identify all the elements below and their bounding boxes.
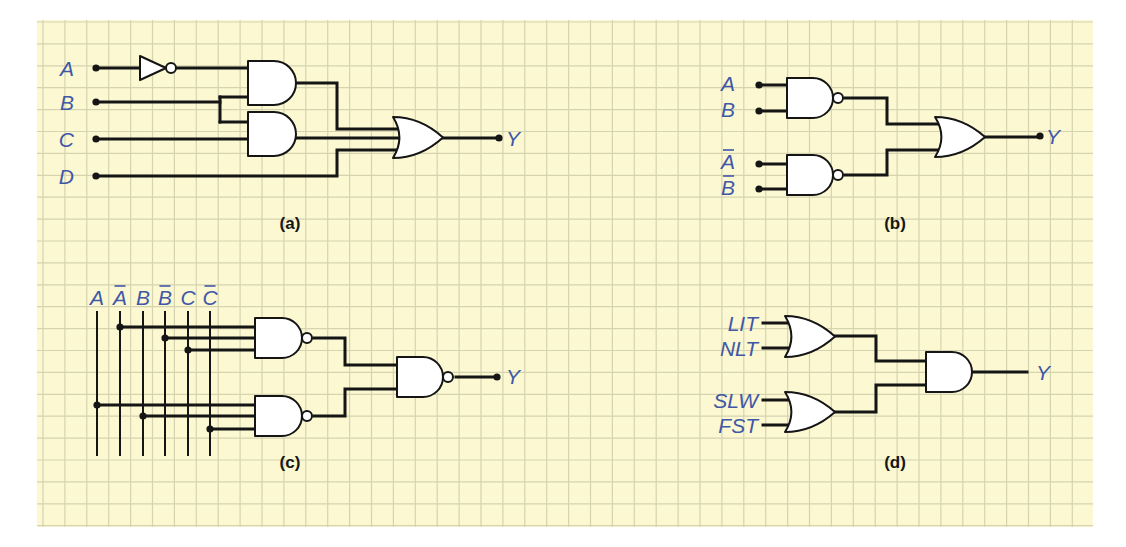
input-terminal-dot [92,98,99,105]
input-terminal-dot [755,160,762,167]
nand-gate-icon [787,78,833,118]
logic-circuits-figure: ABCDY(a) ABABY(b) AABBCCY(c) LITNLTSLWFS… [0,0,1126,547]
signal-label: SLW [713,389,760,412]
and-gate-icon [248,61,296,105]
inversion-bubble [302,333,312,343]
inversion-bubble [443,372,453,382]
junction-dot [206,425,213,432]
signal-label: B [60,91,74,114]
signal-label: Y [1036,361,1052,384]
input-terminal-dot [755,185,762,192]
signal-label: A [719,150,735,173]
and-gate-icon [926,352,972,392]
and-gate-3 [248,112,296,156]
inversion-bubble [833,93,843,103]
signal-label: A [719,72,735,95]
signal-label: C [180,286,196,309]
nand-gate-icon [787,155,833,195]
signal-label: A [58,57,74,80]
output: Y [1036,361,1052,384]
input-terminal-dot [755,81,762,88]
panel-caption: (c) [280,453,301,472]
inversion-bubble [302,411,312,421]
signal-label: Y [1046,125,1062,148]
panel-caption: (a) [280,214,301,233]
and-gate-icon [248,112,296,156]
input-terminal-dot [92,64,99,71]
signal-label: A [88,286,104,309]
panel-caption: (d) [884,453,906,472]
output-terminal-dot [1036,132,1043,139]
signal-label: C [59,128,75,151]
input-terminal-dot [755,107,762,114]
signal-label: Y [506,365,522,388]
panel-caption: (b) [884,214,906,233]
signal-label: NLT [720,337,760,360]
and-gate-2 [248,61,296,105]
signal-label: D [59,165,74,188]
diagram-canvas: ABCDY(a) ABABY(b) AABBCCY(c) LITNLTSLWFS… [0,0,1126,547]
signal-label: FST [718,414,760,437]
signal-label: B [136,286,150,309]
junction-dot [116,323,123,330]
junction-dot [139,412,146,419]
signal-label: B [158,286,172,309]
signal-label: B [721,98,735,121]
signal-label: Y [506,127,522,150]
nand-gate-icon [255,396,302,436]
nand-gate-icon [397,357,443,397]
junction-dot [93,401,100,408]
nand-gate-icon [255,318,302,358]
signal-label: A [111,286,127,309]
junction-dot [161,334,168,341]
inversion-bubble [833,170,843,180]
output-terminal-dot [495,134,502,141]
junction-dot [184,346,191,353]
paper-background [37,20,1093,527]
and-gate-3 [926,352,972,392]
signal-label: LIT [728,312,761,335]
input-terminal-dot [92,172,99,179]
inversion-bubble [166,63,176,73]
signal-label: B [721,176,735,199]
input-terminal-dot [92,135,99,142]
graph-paper [37,20,1093,527]
signal-label: C [202,286,218,309]
output-terminal-dot [493,373,500,380]
